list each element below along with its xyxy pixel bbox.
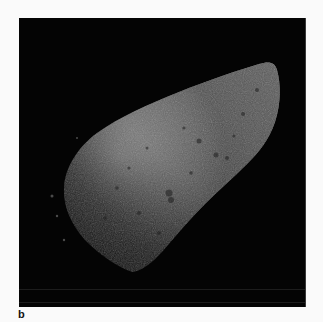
panel-edge [305, 18, 306, 307]
panel-label: b [18, 308, 25, 320]
asteroid-illustration [19, 18, 306, 307]
asteroid-photo [19, 18, 306, 307]
